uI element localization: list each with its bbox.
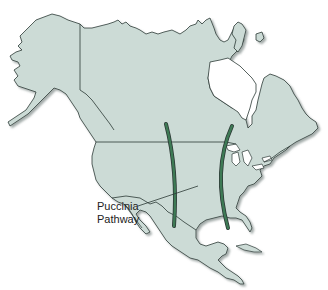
cuba [236, 244, 262, 252]
baffin-island [232, 22, 246, 52]
annotation-line-1: Puccinia [97, 200, 139, 213]
north-america-map [0, 0, 328, 290]
pathway-annotation: Puccinia Pathway [97, 200, 139, 226]
continent-outline [8, 14, 318, 284]
arctic-island [256, 32, 264, 42]
annotation-line-2: Pathway [97, 213, 139, 226]
landmass [8, 14, 318, 284]
